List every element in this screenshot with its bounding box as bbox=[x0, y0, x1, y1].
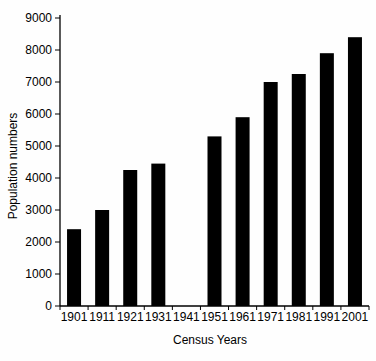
x-tick-label-1931: 1931 bbox=[145, 310, 172, 324]
bar-1911 bbox=[95, 210, 109, 306]
y-tick-label-1000: 1000 bbox=[25, 267, 52, 281]
x-tick-label-1981: 1981 bbox=[285, 310, 312, 324]
population-bar-chart: 0100020003000400050006000700080009000190… bbox=[0, 0, 376, 361]
x-tick-label-1901: 1901 bbox=[61, 310, 88, 324]
y-tick-label-7000: 7000 bbox=[25, 75, 52, 89]
bar-1991 bbox=[320, 53, 334, 306]
x-tick-label-1961: 1961 bbox=[229, 310, 256, 324]
x-tick-label-1991: 1991 bbox=[314, 310, 341, 324]
y-tick-label-5000: 5000 bbox=[25, 139, 52, 153]
bar-1961 bbox=[236, 117, 250, 306]
bar-1901 bbox=[67, 229, 81, 306]
bar-1951 bbox=[208, 136, 222, 306]
y-axis-title: Population numbers bbox=[6, 113, 20, 220]
y-tick-label-2000: 2000 bbox=[25, 235, 52, 249]
y-tick-label-6000: 6000 bbox=[25, 107, 52, 121]
bar-1931 bbox=[151, 164, 165, 306]
y-tick-label-8000: 8000 bbox=[25, 43, 52, 57]
bar-2001 bbox=[348, 37, 362, 306]
y-tick-label-3000: 3000 bbox=[25, 203, 52, 217]
bar-1971 bbox=[264, 82, 278, 306]
x-tick-label-1951: 1951 bbox=[201, 310, 228, 324]
x-tick-label-1971: 1971 bbox=[257, 310, 284, 324]
x-tick-label-2001: 2001 bbox=[342, 310, 369, 324]
y-tick-label-9000: 9000 bbox=[25, 11, 52, 25]
bar-1921 bbox=[123, 170, 137, 306]
bar-1981 bbox=[292, 74, 306, 306]
y-tick-label-0: 0 bbox=[45, 299, 52, 313]
x-tick-label-1911: 1911 bbox=[89, 310, 115, 324]
x-axis-title: Census Years bbox=[173, 333, 247, 347]
y-tick-label-4000: 4000 bbox=[25, 171, 52, 185]
chart-plot-area: 0100020003000400050006000700080009000190… bbox=[0, 0, 376, 361]
x-tick-label-1921: 1921 bbox=[117, 310, 144, 324]
x-tick-label-1941: 1941 bbox=[173, 310, 200, 324]
